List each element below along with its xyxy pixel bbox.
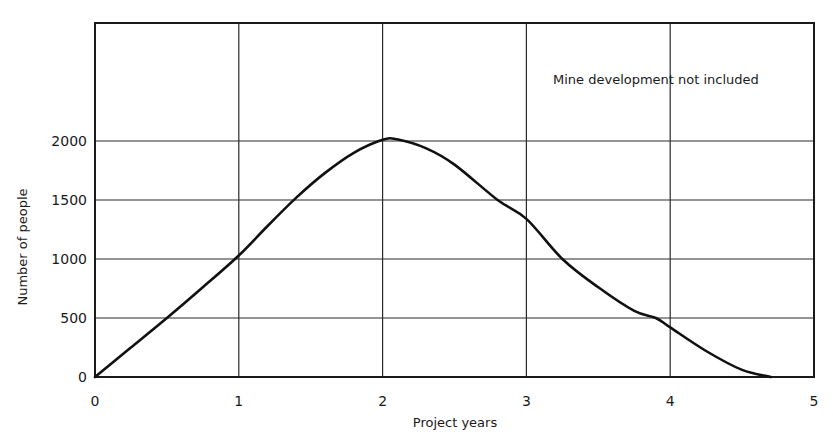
y-axis-label: Number of people: [15, 188, 30, 305]
x-tick-label: 5: [810, 393, 819, 409]
y-tick-label: 2000: [51, 133, 87, 149]
y-tick-label: 1500: [51, 192, 87, 208]
x-axis-ticks: 012345: [91, 393, 819, 409]
annotations: Mine development not included: [553, 72, 759, 87]
x-tick-label: 3: [522, 393, 531, 409]
y-axis-ticks: 0500100015002000: [51, 133, 87, 385]
y-tick-label: 1000: [51, 251, 87, 267]
x-tick-label: 1: [234, 393, 243, 409]
y-tick-label: 0: [78, 369, 87, 385]
x-tick-label: 4: [666, 393, 675, 409]
x-axis-label: Project years: [413, 415, 498, 430]
data-line: [95, 138, 771, 377]
x-tick-label: 0: [91, 393, 100, 409]
annotation-text: Mine development not included: [553, 72, 759, 87]
x-tick-label: 2: [378, 393, 387, 409]
y-tick-label: 500: [60, 310, 87, 326]
chart: 012345 0500100015002000 Project years Nu…: [0, 0, 833, 444]
